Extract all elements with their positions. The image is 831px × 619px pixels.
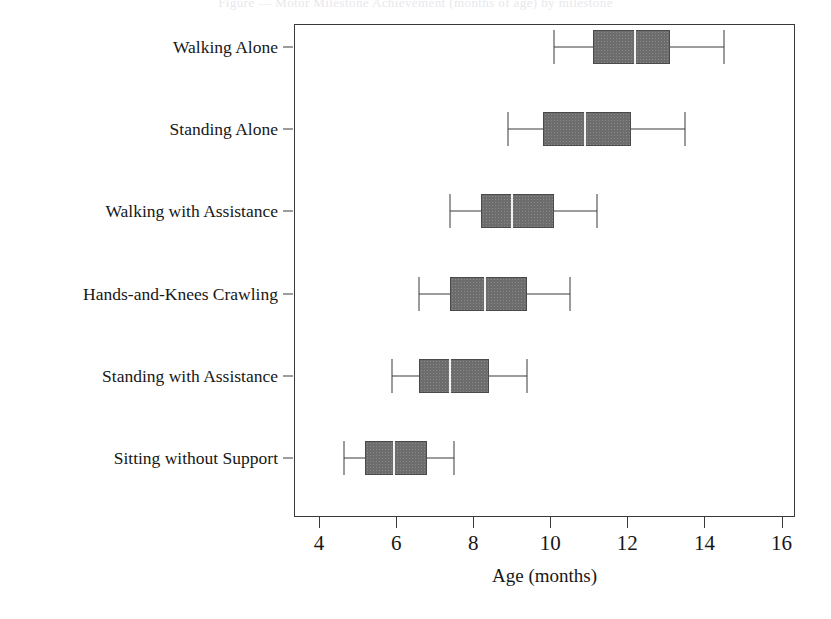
x-axis-tick-label-4: 4 <box>314 531 325 556</box>
whisker-low-cap <box>450 194 451 228</box>
x-axis-tick-6 <box>396 517 397 528</box>
x-axis-tick-8 <box>473 517 474 528</box>
whisker-low-line <box>344 457 365 458</box>
box-iqr <box>450 277 527 311</box>
whisker-high-cap <box>569 277 570 311</box>
whisker-low-line <box>392 375 419 376</box>
whisker-high-line <box>670 47 724 48</box>
whisker-high-line <box>554 211 596 212</box>
whisker-low-line <box>554 47 593 48</box>
whisker-low-line <box>450 211 481 212</box>
whisker-high-cap <box>685 112 686 146</box>
box-iqr <box>419 359 488 393</box>
box-iqr <box>593 30 670 64</box>
cropped-title-text: Figure — Motor Milestone Achievement (mo… <box>0 0 831 12</box>
whisker-high-line <box>427 457 454 458</box>
whisker-high-cap <box>596 194 597 228</box>
chart-page: Figure — Motor Milestone Achievement (mo… <box>0 0 831 619</box>
median-line <box>511 194 513 228</box>
median-line <box>634 30 636 64</box>
y-axis-label-standing-alone: Standing Alone <box>170 119 278 140</box>
whisker-low-cap <box>554 30 555 64</box>
y-axis-tick-2 <box>283 211 293 212</box>
x-axis-tick-label-6: 6 <box>391 531 402 556</box>
x-axis-tick-4 <box>319 517 320 528</box>
whisker-low-cap <box>507 112 508 146</box>
x-axis-tick-label-12: 12 <box>617 531 638 556</box>
x-axis-tick-14 <box>704 517 705 528</box>
whisker-low-cap <box>344 441 345 475</box>
x-axis-title: Age (months) <box>294 565 795 587</box>
x-axis-tick-16 <box>782 517 783 528</box>
whisker-low-line <box>419 293 450 294</box>
median-line <box>449 359 451 393</box>
box-iqr <box>365 441 427 475</box>
x-axis-tick-10 <box>550 517 551 528</box>
y-axis-tick-4 <box>283 375 293 376</box>
box-iqr <box>481 194 554 228</box>
whisker-high-cap <box>453 441 454 475</box>
whisker-low-cap <box>419 277 420 311</box>
y-axis-tick-0 <box>283 47 293 48</box>
median-line <box>484 277 486 311</box>
y-axis-label-sitting-without-support: Sitting without Support <box>114 447 278 468</box>
y-axis-tick-5 <box>283 457 293 458</box>
x-axis-tick-label-10: 10 <box>540 531 561 556</box>
x-axis-tick-12 <box>627 517 628 528</box>
whisker-high-line <box>489 375 528 376</box>
whisker-high-line <box>527 293 569 294</box>
x-axis-tick-label-16: 16 <box>771 531 792 556</box>
whisker-low-line <box>508 129 543 130</box>
box-iqr <box>543 112 632 146</box>
whisker-low-cap <box>392 359 393 393</box>
whisker-high-cap <box>723 30 724 64</box>
y-axis-label-hands-and-knees-crawling: Hands-and-Knees Crawling <box>83 283 278 304</box>
y-axis-tick-1 <box>283 129 293 130</box>
whisker-high-cap <box>527 359 528 393</box>
whisker-high-line <box>631 129 685 130</box>
x-axis-tick-label-14: 14 <box>694 531 715 556</box>
x-axis-tick-label-8: 8 <box>468 531 479 556</box>
median-line <box>584 112 586 146</box>
y-axis-tick-3 <box>283 293 293 294</box>
median-line <box>393 441 395 475</box>
y-axis-label-standing-with-assistance: Standing with Assistance <box>102 365 278 386</box>
y-axis-label-walking-with-assistance: Walking with Assistance <box>105 201 278 222</box>
y-axis-label-walking-alone: Walking Alone <box>173 37 278 58</box>
